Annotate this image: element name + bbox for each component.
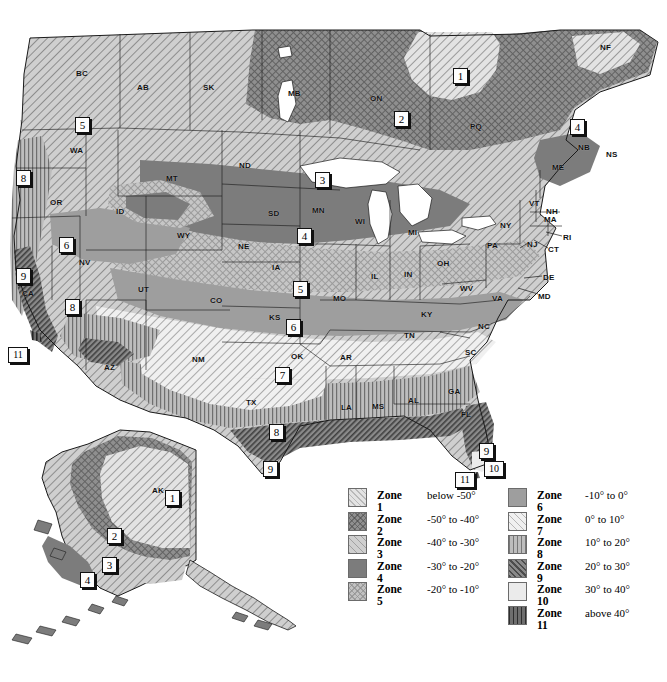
region-label-vt: VT	[529, 199, 540, 208]
zone-marker-number: 10	[484, 461, 504, 477]
zone-marker-9: 9	[263, 461, 278, 477]
legend-zone-range: 30° to 40°	[585, 583, 630, 595]
legend-zone-range: -10° to 0°	[585, 489, 628, 501]
region-label-pa: PA	[487, 241, 498, 250]
legend-swatch-z3	[348, 535, 367, 554]
zone-marker-number: 6	[59, 237, 74, 253]
zone4-pocket-maine	[534, 132, 600, 186]
legend-zone-label: Zone 10	[537, 583, 562, 607]
legend-swatch-z11	[508, 606, 527, 625]
legend-swatch-z9	[508, 559, 527, 578]
region-label-fl: FL	[461, 410, 471, 419]
legend-swatch-z4	[348, 559, 367, 578]
region-label-id: ID	[116, 207, 124, 216]
hardiness-zone-map-figure: BCABSKMBONPQNFNBNSMEWAORIDMTNDSDMNWIMINY…	[0, 0, 667, 682]
legend-zone-range: 20° to 30°	[585, 560, 630, 572]
region-label-ga: GA	[448, 387, 460, 396]
legend-swatch-z10	[508, 582, 527, 601]
legend-zone-label: Zone 8	[537, 536, 562, 560]
region-label-or: OR	[50, 198, 62, 207]
region-label-nv: NV	[79, 258, 91, 267]
legend-swatch-z8	[508, 535, 527, 554]
zone-legend: Zone 1below -50°Zone 2-50° to -40°Zone 3…	[345, 487, 667, 647]
region-label-ab: AB	[137, 83, 149, 92]
region-label-nj: NJ	[527, 240, 538, 249]
region-label-va: VA	[492, 294, 503, 303]
zone-marker-8: 8	[65, 299, 80, 315]
region-label-ks: KS	[269, 313, 281, 322]
region-label-pq: PQ	[470, 122, 482, 131]
legend-swatch-z5	[348, 582, 367, 601]
legend-zone-range: -50° to -40°	[427, 513, 479, 525]
zone-marker-number: 8	[16, 170, 31, 186]
region-label-de: DE	[543, 273, 555, 282]
zone-marker-number: 8	[269, 424, 284, 440]
region-label-mo: MO	[333, 294, 346, 303]
zone-marker-2: 2	[394, 111, 409, 127]
legend-swatch-z6	[508, 488, 527, 507]
zone-marker-3: 3	[315, 172, 330, 188]
zone-marker-4: 4	[80, 572, 95, 588]
region-label-tn: TN	[404, 331, 415, 340]
legend-zone-range: -20° to -10°	[427, 583, 479, 595]
zone-marker-number: 1	[165, 490, 180, 506]
zone-marker-8: 8	[269, 424, 284, 440]
zone-marker-5: 5	[293, 281, 308, 297]
region-label-ma: MA	[544, 215, 557, 224]
zone-marker-number: 9	[263, 461, 278, 477]
zone-marker-number: 8	[65, 299, 80, 315]
legend-zone-range: above 40°	[585, 607, 629, 619]
zone-marker-number: 3	[102, 557, 117, 573]
legend-zone-label: Zone 5	[377, 583, 402, 607]
region-label-oh: OH	[437, 259, 449, 268]
region-label-ri: RI	[563, 233, 571, 242]
legend-swatch-z7	[508, 512, 527, 531]
legend-zone-label: Zone 1	[377, 489, 402, 513]
zone-marker-number: 5	[75, 117, 90, 133]
legend-zone-label: Zone 2	[377, 513, 402, 537]
zone-marker-1: 1	[453, 68, 468, 84]
legend-zone-label: Zone 9	[537, 560, 562, 584]
region-label-in: IN	[404, 270, 412, 279]
great-slave-lake	[278, 46, 292, 58]
region-label-ok: OK	[291, 352, 303, 361]
legend-zone-label: Zone 3	[377, 536, 402, 560]
region-label-ca: CA	[22, 289, 34, 298]
region-label-ct: CT	[548, 245, 559, 254]
zone-marker-number: 11	[455, 472, 475, 488]
region-label-mt: MT	[166, 174, 178, 183]
region-label-ar: AR	[340, 353, 352, 362]
legend-zone-range: below -50°	[427, 489, 476, 501]
region-label-wa: WA	[70, 146, 83, 155]
zone-marker-4: 4	[570, 119, 585, 135]
zone-marker-11: 11	[8, 347, 28, 363]
zone-marker-number: 6	[286, 319, 301, 335]
region-label-sk: SK	[203, 83, 215, 92]
legend-zone-label: Zone 6	[537, 489, 562, 513]
region-label-ne: NE	[238, 242, 250, 251]
region-label-ms: MS	[372, 402, 384, 411]
zone-marker-8: 8	[16, 170, 31, 186]
zone-marker-2: 2	[107, 528, 122, 544]
region-label-sd: SD	[268, 209, 280, 218]
zone-marker-number: 2	[107, 528, 122, 544]
zone-marker-number: 11	[8, 347, 28, 363]
region-label-wv: WV	[460, 284, 473, 293]
region-label-nm: NM	[192, 355, 205, 364]
zone-marker-11: 11	[455, 472, 475, 488]
region-label-ak: AK	[152, 486, 164, 495]
legend-zone-range: 0° to 10°	[585, 513, 624, 525]
region-label-ns: NS	[606, 150, 618, 159]
region-label-az: AZ	[104, 363, 115, 372]
region-label-ky: KY	[421, 310, 433, 319]
zone-marker-6: 6	[59, 237, 74, 253]
continental-zone-bands	[10, 30, 658, 480]
zone-marker-number: 4	[80, 572, 95, 588]
region-label-nc: NC	[478, 322, 490, 331]
legend-swatch-z1	[348, 488, 367, 507]
legend-zone-label: Zone 4	[377, 560, 402, 584]
region-label-nf: NF	[600, 43, 611, 52]
zone-marker-number: 2	[394, 111, 409, 127]
region-label-tx: TX	[246, 398, 257, 407]
zone-marker-number: 4	[297, 228, 312, 244]
